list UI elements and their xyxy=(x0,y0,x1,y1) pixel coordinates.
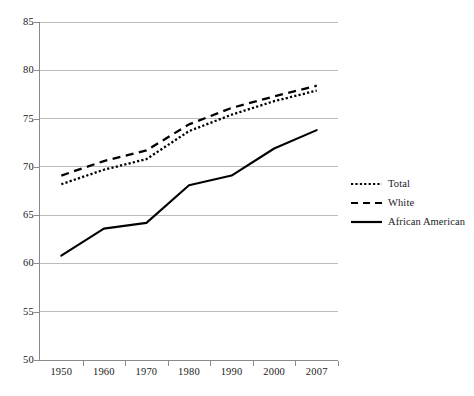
y-tick-label: 55 xyxy=(8,306,34,317)
x-tick-mark xyxy=(210,361,211,366)
x-tick-label: 1990 xyxy=(208,366,256,378)
y-tick-label: 50 xyxy=(8,354,34,365)
y-tick-label: 60 xyxy=(8,257,34,268)
y-tick-label: 85 xyxy=(8,16,34,27)
y-tick-label: 65 xyxy=(8,209,34,220)
legend-label-total: Total xyxy=(388,178,410,190)
legend-label-african-american: African American xyxy=(388,216,465,228)
legend-label-white: White xyxy=(388,197,414,209)
series-line-total xyxy=(61,91,316,185)
y-tick-label: 75 xyxy=(8,113,34,124)
legend-item-white: White xyxy=(350,193,474,212)
y-axis-labels: 5055606570758085 xyxy=(4,0,34,396)
series-line-african-american xyxy=(61,130,316,256)
x-axis-labels: 1950196019701980199020002007 xyxy=(40,366,338,384)
chart-legend: Total White African American xyxy=(350,174,474,231)
legend-swatch-dotted-line xyxy=(350,178,383,190)
x-tick-label: 2000 xyxy=(250,366,298,378)
x-tick-mark xyxy=(83,361,84,366)
x-tick-mark xyxy=(168,361,169,366)
life-expectancy-line-chart: 5055606570758085 19501960197019801990200… xyxy=(0,0,474,396)
legend-swatch-dashed-line xyxy=(350,197,383,209)
x-tick-label: 1980 xyxy=(165,366,213,378)
x-tick-mark xyxy=(295,361,296,366)
plot-area xyxy=(40,22,338,360)
x-tick-mark xyxy=(253,361,254,366)
legend-item-african-american: African American xyxy=(350,212,474,231)
x-tick-label: 1960 xyxy=(80,366,128,378)
legend-item-total: Total xyxy=(350,174,474,193)
y-tick-label: 70 xyxy=(8,161,34,172)
x-tick-mark xyxy=(125,361,126,366)
x-tick-label: 1970 xyxy=(122,366,170,378)
x-tick-mark xyxy=(338,361,339,366)
data-series-group xyxy=(40,22,338,360)
x-tick-label: 2007 xyxy=(293,366,341,378)
x-tick-label: 1950 xyxy=(37,366,85,378)
legend-swatch-solid-line xyxy=(350,216,383,228)
y-tick-label: 80 xyxy=(8,64,34,75)
